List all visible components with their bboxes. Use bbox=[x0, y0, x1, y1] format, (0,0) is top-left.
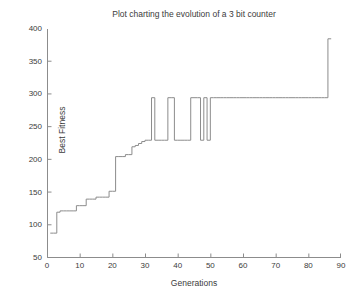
y-tick-label: 300 bbox=[16, 89, 42, 98]
chart-screenshot: Plot charting the evolution of a 3 bit c… bbox=[0, 0, 364, 301]
axis-spines bbox=[48, 29, 342, 258]
y-tick-label: 100 bbox=[16, 220, 42, 229]
series-best-fitness bbox=[50, 39, 331, 233]
x-tick-label: 50 bbox=[198, 261, 222, 270]
x-tick-label: 70 bbox=[264, 261, 288, 270]
plot-canvas bbox=[47, 29, 341, 258]
y-tick-label: 350 bbox=[16, 57, 42, 66]
x-tick-label: 20 bbox=[100, 261, 124, 270]
x-axis-title: Generations bbox=[47, 278, 341, 288]
y-axis-title: Best Fitness bbox=[57, 84, 67, 176]
y-axis-ticks bbox=[48, 29, 52, 258]
x-tick-label: 0 bbox=[35, 261, 59, 270]
plot-area: Best Fitness 50100150200250300350400 010… bbox=[47, 29, 341, 258]
x-tick-label: 80 bbox=[296, 261, 320, 270]
y-tick-label: 200 bbox=[16, 155, 42, 164]
x-axis-ticks bbox=[48, 254, 341, 258]
y-tick-label: 250 bbox=[16, 122, 42, 131]
y-tick-label: 400 bbox=[16, 24, 42, 33]
x-tick-label: 90 bbox=[329, 261, 353, 270]
y-tick-label: 150 bbox=[16, 188, 42, 197]
x-tick-label: 40 bbox=[166, 261, 190, 270]
x-tick-label: 10 bbox=[68, 261, 92, 270]
chart-title: Plot charting the evolution of a 3 bit c… bbox=[47, 9, 341, 19]
x-tick-label: 30 bbox=[133, 261, 157, 270]
x-tick-label: 60 bbox=[231, 261, 255, 270]
